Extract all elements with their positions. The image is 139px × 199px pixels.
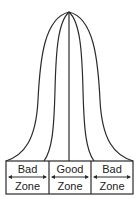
zone-1-top-label: Bad xyxy=(6,163,49,175)
zone-2-top-label: Good xyxy=(49,163,91,175)
zone-3-top-label: Bad xyxy=(91,163,133,175)
zone-3-bottom-label: Zone xyxy=(91,180,133,192)
zone-2-bottom-label: Zone xyxy=(49,180,91,192)
zone-1-bottom-label: Zone xyxy=(6,180,49,192)
